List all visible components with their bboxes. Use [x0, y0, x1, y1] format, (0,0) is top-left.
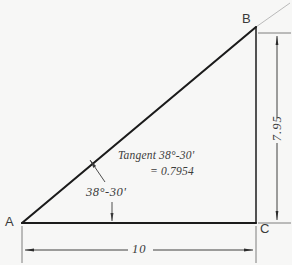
triangle-diagram-svg	[0, 0, 292, 265]
dimension-label-base: 10	[132, 243, 147, 256]
extension-line-beyond-b	[256, 3, 290, 27]
dimension-label-height: 7.95	[271, 115, 284, 141]
vertex-label-b: B	[242, 12, 251, 25]
triangle-hypotenuse-ab	[22, 27, 256, 223]
vertex-label-c: C	[260, 222, 270, 235]
angle-label: 38°-30'	[86, 186, 126, 199]
tangent-note-line-2: = 0.7954	[150, 166, 194, 178]
vertex-label-a: A	[5, 215, 14, 228]
figure-canvas: A B C 10 7.95 Tangent 38°-30' = 0.7954 3…	[0, 0, 292, 265]
tangent-note-line-1: Tangent 38°-30'	[118, 150, 194, 162]
leader-line-to-hypotenuse	[90, 160, 105, 182]
